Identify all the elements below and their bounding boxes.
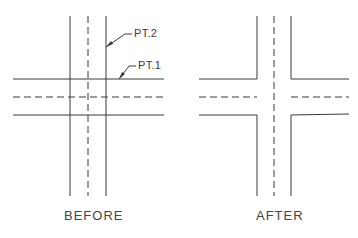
pt2-label: PT.2 — [134, 27, 157, 39]
pt1-label: PT.1 — [138, 59, 161, 71]
after-caption: AFTER — [256, 208, 304, 223]
after-bottom-left-corner — [199, 115, 257, 196]
pt1-leader — [119, 66, 136, 79]
pt2-arrow-icon — [106, 41, 113, 47]
after-drawing — [199, 16, 349, 196]
before-caption: BEFORE — [64, 208, 123, 223]
after-bottom-right-corner — [291, 114, 349, 196]
after-top-left-corner — [199, 16, 257, 79]
intersection-diagram — [0, 0, 358, 238]
after-top-right-corner — [291, 16, 349, 79]
before-drawing — [13, 16, 164, 196]
